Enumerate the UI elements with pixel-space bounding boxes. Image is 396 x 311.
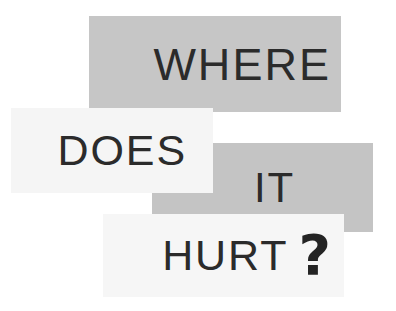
panel-where: WHERE [89, 16, 341, 112]
panel-does-label: DOES [11, 108, 213, 193]
panel-hurt: HURT ? [103, 214, 344, 297]
panel-hurt-content: HURT ? [103, 214, 344, 297]
panel-hurt-label: HURT [162, 234, 288, 277]
question-mark-glyph: ? [299, 227, 331, 283]
panel-where-label: WHERE [89, 16, 341, 112]
poster-canvas: WHERE IT DOES HURT ? [0, 0, 396, 311]
panel-does: DOES [11, 108, 213, 193]
